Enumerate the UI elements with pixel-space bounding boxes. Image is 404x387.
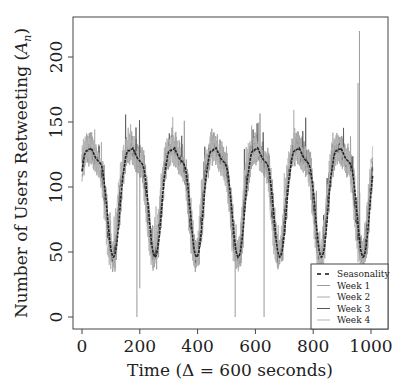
y-axis-ticks: 050100150200 bbox=[46, 41, 73, 323]
y-tick-label: 0 bbox=[46, 312, 66, 323]
x-tick-label: 400 bbox=[181, 336, 213, 356]
y-tick-label: 100 bbox=[46, 171, 66, 203]
x-tick-label: 1000 bbox=[349, 336, 392, 356]
x-axis-ticks: 02004006008001000 bbox=[77, 329, 393, 356]
y-axis-label: Number of Users Retweeting (An) bbox=[11, 28, 34, 318]
x-tick-label: 200 bbox=[124, 336, 156, 356]
legend-label: Week 1 bbox=[337, 281, 370, 291]
legend-label: Week 4 bbox=[337, 315, 370, 325]
y-tick-label: 150 bbox=[46, 106, 66, 138]
time-series-chart: 02004006008001000 050100150200 Time (Δ =… bbox=[0, 0, 404, 387]
x-axis-label: Time (Δ = 600 seconds) bbox=[127, 360, 333, 380]
legend-label: Week 3 bbox=[337, 304, 370, 314]
x-tick-label: 800 bbox=[297, 336, 329, 356]
x-tick-label: 600 bbox=[239, 336, 271, 356]
x-tick-label: 0 bbox=[77, 336, 88, 356]
y-tick-label: 50 bbox=[46, 241, 66, 263]
y-tick-label: 200 bbox=[46, 41, 66, 73]
legend: SeasonalityWeek 1Week 2Week 3Week 4 bbox=[311, 264, 390, 329]
legend-label: Seasonality bbox=[337, 269, 390, 279]
legend-label: Week 2 bbox=[337, 292, 370, 302]
